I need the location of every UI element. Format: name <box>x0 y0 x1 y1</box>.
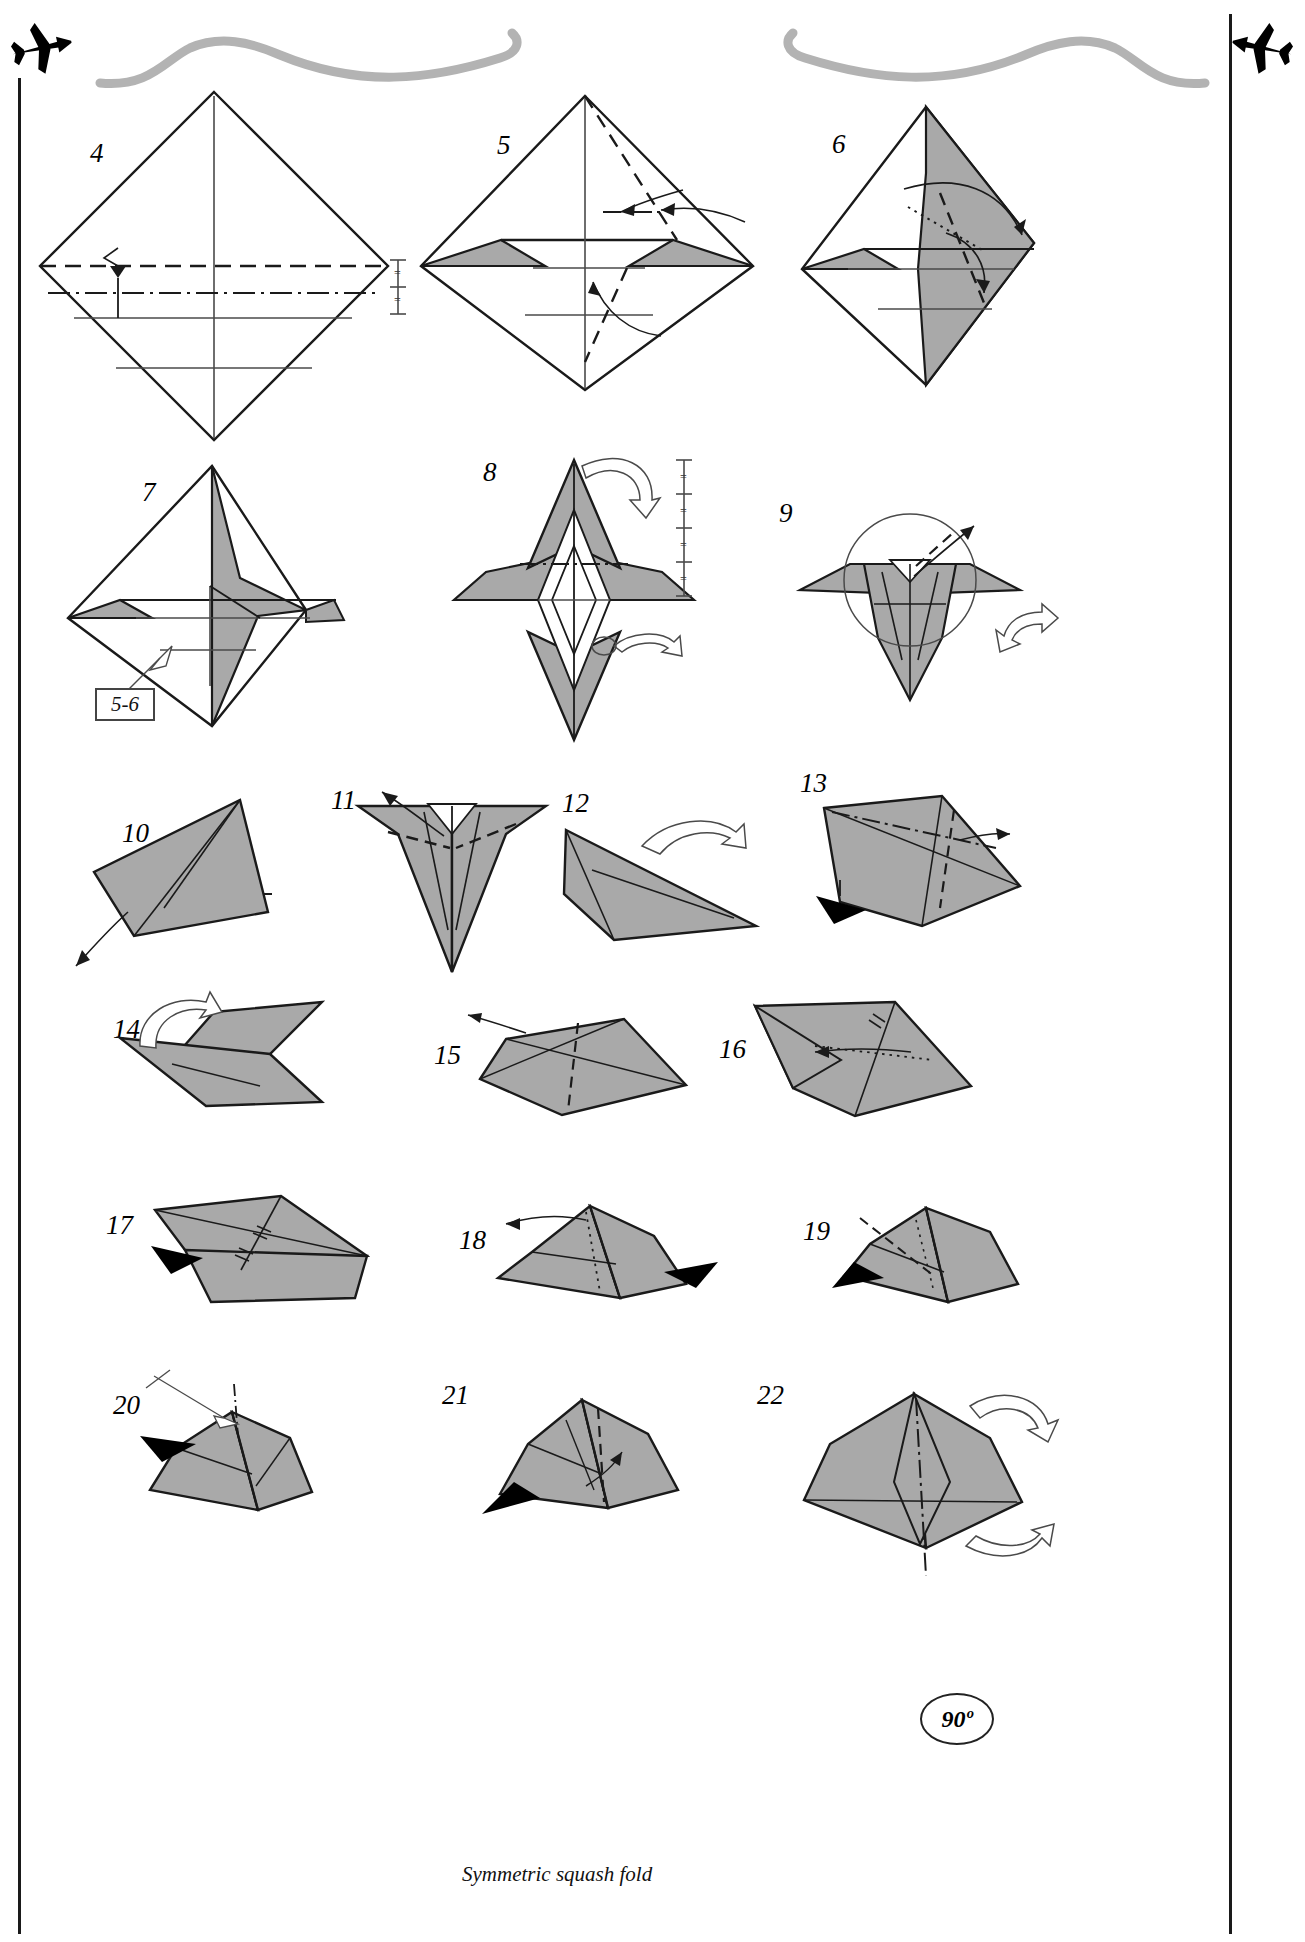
paper-back-body <box>480 1019 686 1115</box>
diagram-page: 4 5 6 7 8 9 10 11 12 13 14 15 16 17 18 1… <box>0 0 1305 1942</box>
caption-symmetric-squash-fold: Symmetric squash fold <box>462 1862 652 1887</box>
step-number-17: 17 <box>106 1212 133 1239</box>
page-header-ornament <box>0 0 1305 95</box>
airplane-left-icon <box>7 16 77 79</box>
svg-text:=: = <box>680 504 687 518</box>
step-number-18: 18 <box>459 1227 486 1254</box>
figure-step-17 <box>145 1190 395 1320</box>
step-number-20: 20 <box>113 1392 140 1419</box>
swoosh-left-icon <box>100 33 517 84</box>
reference-callout-5-6: 5-6 <box>95 688 155 721</box>
equal-measure-marks-4: = = = = <box>676 460 692 596</box>
svg-text:=: = <box>680 538 687 552</box>
figure-step-4: = = <box>36 88 406 448</box>
figure-step-21 <box>482 1390 722 1550</box>
svg-text:=: = <box>394 293 401 307</box>
figure-step-10 <box>60 790 320 980</box>
step-number-21: 21 <box>442 1382 469 1409</box>
figure-step-9 <box>790 520 1090 740</box>
figure-step-8: = = = = <box>424 450 724 750</box>
reference-pointer-arrow <box>146 1370 238 1428</box>
step-number-16: 16 <box>719 1036 746 1063</box>
turn-over-arrow <box>642 821 746 854</box>
figure-step-22 <box>790 1380 1070 1580</box>
figure-step-20 <box>140 1370 370 1530</box>
figure-step-13 <box>810 790 1060 950</box>
swoosh-right-icon <box>788 33 1205 84</box>
paper-back-tab-right <box>306 600 344 622</box>
figure-step-18 <box>490 1200 730 1330</box>
paper-back-panel-right <box>918 107 1034 385</box>
figure-step-15 <box>460 1005 700 1135</box>
paper-back-right <box>452 806 546 972</box>
svg-text:=: = <box>394 266 401 280</box>
equal-measure-marks: = = <box>390 260 406 314</box>
pointer-arrow-up-left <box>468 1013 526 1033</box>
figure-step-11 <box>340 790 570 990</box>
paper-body <box>421 96 753 390</box>
valley-fold-diagonal <box>916 532 954 566</box>
angle-badge-90: 90º <box>920 1693 994 1745</box>
direction-arrow-down-left <box>76 912 128 966</box>
page-rule-right <box>1229 14 1232 1934</box>
svg-text:=: = <box>680 572 687 586</box>
step-number-19: 19 <box>803 1218 830 1245</box>
figure-step-12 <box>556 800 786 960</box>
figure-step-5 <box>415 90 765 400</box>
figure-step-14 <box>110 990 370 1130</box>
step-number-15: 15 <box>434 1042 461 1069</box>
figure-step-19 <box>830 1200 1060 1330</box>
step-number-22: 22 <box>757 1382 784 1409</box>
page-rule-left <box>18 78 21 1934</box>
paper-back-lower <box>120 1038 322 1106</box>
paper-back-body <box>94 800 268 936</box>
turn-over-arrow-lower <box>966 1524 1054 1556</box>
svg-text:=: = <box>680 470 687 484</box>
paper-back-lower <box>185 1250 367 1302</box>
rotate-arrow-right <box>996 604 1058 652</box>
figure-step-16 <box>745 1000 995 1130</box>
airplane-right-icon <box>1227 16 1297 79</box>
figure-step-6 <box>778 103 1068 403</box>
